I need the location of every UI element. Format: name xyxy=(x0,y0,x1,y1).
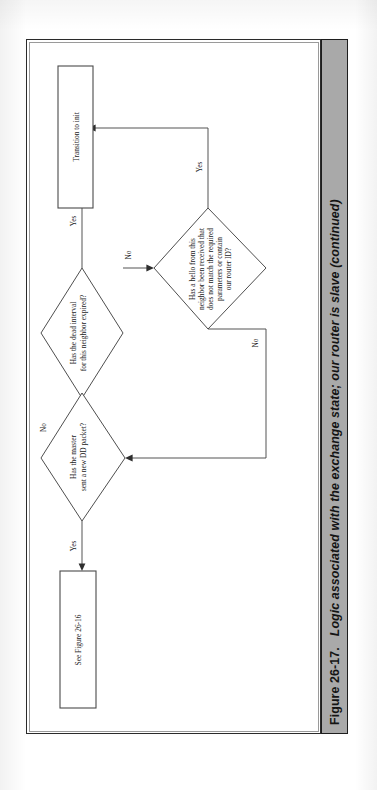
edge-dead-no-label: No xyxy=(125,250,133,259)
node-dead-interval-line1: Has the dead interval xyxy=(69,302,78,365)
edge-master-yes-arrowhead xyxy=(79,563,86,571)
figure-number: Figure 26-17. xyxy=(327,647,341,725)
edge-master-yes-label: Yes xyxy=(70,541,78,552)
node-hello-mismatch-line2: neighbor been received that xyxy=(197,227,206,310)
node-master-new-dd-line1: Has the master xyxy=(69,435,78,479)
node-transition-to-init-label: Transition to init xyxy=(72,111,81,161)
edge-dead-yes-label: Yes xyxy=(70,216,78,227)
edge-dead-no-arrowhead xyxy=(146,265,154,272)
node-hello-mismatch-line5: our router ID? xyxy=(224,248,233,290)
node-hello-mismatch-line4: parameters or contain xyxy=(215,237,224,301)
edge-entry-no-label: No xyxy=(40,423,48,432)
figure-caption: Figure 26-17.Logic associated with the e… xyxy=(328,43,340,731)
flowchart: Transition to init Has the dead interval… xyxy=(30,43,318,730)
node-hello-mismatch-line3: does not match the required xyxy=(206,228,215,310)
figure-caption-band: Figure 26-17.Logic associated with the e… xyxy=(321,39,348,734)
edge-hello-yes-label: Yes xyxy=(196,162,204,173)
node-see-figure-26-16-label: See Figure 26-16 xyxy=(74,614,83,665)
node-hello-mismatch-line1: Has a hello from this xyxy=(188,238,197,300)
node-master-new-dd-line2: sent a new DD packet? xyxy=(79,423,88,491)
edge-hello-yes-line xyxy=(93,128,208,208)
scanned-page: Transition to init Has the dead interval… xyxy=(0,0,377,790)
figure-caption-text: Logic associated with the exchange state… xyxy=(327,199,341,636)
edge-hello-no-line xyxy=(130,329,266,458)
node-dead-interval-line2: for this neighbor expired? xyxy=(79,295,88,372)
edge-hello-no-arrowhead xyxy=(125,455,133,462)
edge-hello-no-label: No xyxy=(252,338,260,347)
